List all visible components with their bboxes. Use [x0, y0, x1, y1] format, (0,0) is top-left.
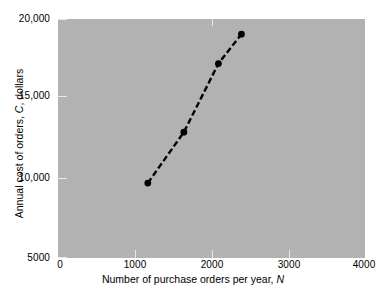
data-point-marker: [215, 60, 222, 67]
series-line-group: [148, 34, 242, 183]
y-axis-title-text: Annual cost of orders,: [13, 113, 25, 218]
x-tick-label-0: 0: [57, 260, 63, 270]
data-point-marker: [180, 129, 187, 136]
y-axis-title-symbol: C: [13, 106, 25, 114]
chart-figure: 20,000 15,000 10,000 5000 0 1000 2000 30…: [0, 0, 386, 292]
y-tick-label-20000: 20,000: [19, 14, 50, 24]
x-tick-label-1000: 1000: [124, 260, 147, 270]
data-point-marker: [238, 31, 245, 38]
y-axis-title: Annual cost of orders, C, dollars: [14, 39, 25, 249]
y-tick-label-5000: 5000: [27, 253, 50, 263]
x-tick-label-2000: 2000: [201, 260, 224, 270]
series-line-annual-cost: [148, 34, 242, 183]
y-axis-title-suffix: , dollars: [13, 69, 25, 106]
plot-area: [58, 19, 365, 258]
x-axis-title-text: Number of purchase orders per year,: [102, 273, 277, 285]
series-plot: [58, 19, 365, 258]
series-markers: [144, 31, 244, 187]
x-axis-title-symbol: N: [276, 273, 284, 285]
x-axis-title: Number of purchase orders per year, N: [0, 274, 386, 285]
x-tick-label-3000: 3000: [278, 260, 301, 270]
data-point-marker: [144, 180, 151, 187]
x-tick-label-4000: 4000: [353, 260, 376, 270]
